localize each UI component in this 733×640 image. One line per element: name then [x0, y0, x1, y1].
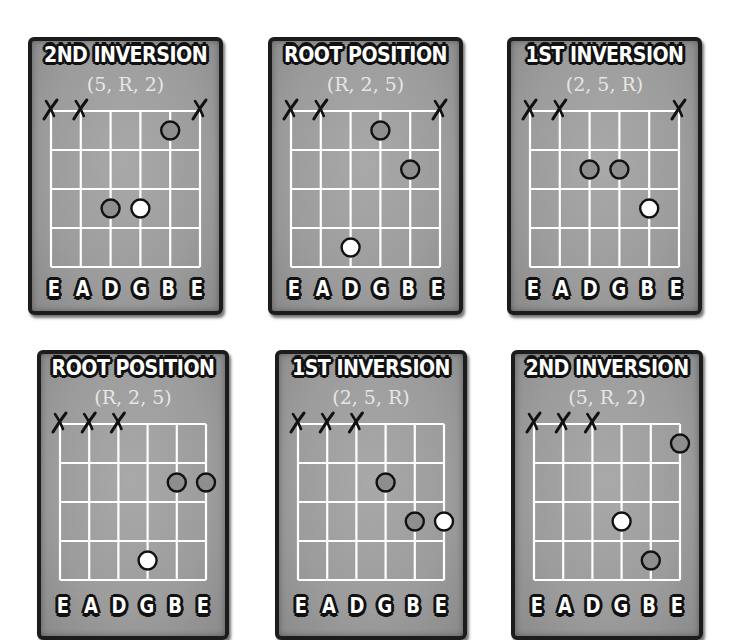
root-note-dot [139, 552, 157, 570]
string-label: E [664, 276, 688, 301]
string-label: E [425, 276, 449, 301]
string-label: E [665, 593, 689, 618]
string-label: B [396, 276, 420, 301]
string-label: E [51, 593, 75, 618]
string-labels: E A D G B E [282, 278, 449, 299]
string-label: B [156, 276, 180, 301]
string-label: B [635, 276, 659, 301]
string-label: B [401, 593, 425, 618]
root-note-dot [435, 513, 453, 531]
root-note-dot [613, 513, 631, 531]
string-label: A [550, 276, 574, 301]
string-label: E [191, 593, 215, 618]
string-label: D [339, 276, 363, 301]
interval-note-dot [610, 161, 628, 179]
string-label: D [99, 276, 123, 301]
string-label: A [553, 593, 577, 618]
string-label: E [185, 276, 209, 301]
interval-note-dot [161, 122, 179, 140]
string-label: D [107, 593, 131, 618]
string-label: G [368, 276, 392, 301]
string-label: A [79, 593, 103, 618]
string-label: B [637, 593, 661, 618]
fretboard [32, 41, 219, 311]
string-label: D [581, 593, 605, 618]
interval-note-dot [642, 552, 660, 570]
string-label: D [345, 593, 369, 618]
chord-card: ROOT POSITION (R, 2, 5) E A D G B E [268, 37, 463, 315]
string-label: D [578, 276, 602, 301]
interval-note-dot [671, 435, 689, 453]
string-label: E [282, 276, 306, 301]
string-label: E [42, 276, 66, 301]
string-label: G [135, 593, 159, 618]
string-label: A [71, 276, 95, 301]
interval-note-dot [581, 161, 599, 179]
fretboard [272, 41, 459, 311]
string-labels: E A D G B E [289, 595, 453, 616]
string-label: E [521, 276, 545, 301]
root-note-dot [131, 200, 149, 218]
interval-note-dot [197, 474, 215, 492]
string-label: G [609, 593, 633, 618]
root-note-dot [640, 200, 658, 218]
interval-note-dot [371, 122, 389, 140]
string-label: B [163, 593, 187, 618]
string-label: E [525, 593, 549, 618]
interval-note-dot [102, 200, 120, 218]
root-note-dot [342, 239, 360, 257]
string-labels: E A D G B E [525, 595, 689, 616]
interval-note-dot [377, 474, 395, 492]
string-label: A [317, 593, 341, 618]
interval-note-dot [406, 513, 424, 531]
string-labels: E A D G B E [42, 278, 209, 299]
string-label: E [429, 593, 453, 618]
fretboard [511, 41, 698, 311]
interval-note-dot [401, 161, 419, 179]
chord-card: 2ND INVERSION (5, R, 2) E A D G B E [511, 350, 703, 640]
chord-card: ROOT POSITION (R, 2, 5) E A D G B E [37, 350, 229, 640]
chord-card: 1ST INVERSION (2, 5, R) E A D G B E [275, 350, 467, 640]
chord-card: 1ST INVERSION (2, 5, R) E A D G B E [507, 37, 702, 315]
string-labels: E A D G B E [521, 278, 688, 299]
chord-card: 2ND INVERSION (5, R, 2) E A D G B E [28, 37, 223, 315]
string-label: A [311, 276, 335, 301]
string-label: G [128, 276, 152, 301]
string-label: E [289, 593, 313, 618]
string-labels: E A D G B E [51, 595, 215, 616]
interval-note-dot [168, 474, 186, 492]
string-label: G [373, 593, 397, 618]
string-label: G [607, 276, 631, 301]
